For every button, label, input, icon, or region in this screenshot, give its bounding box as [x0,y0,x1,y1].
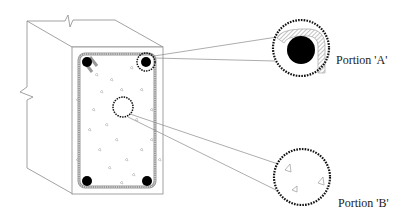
beam-body [20,15,163,194]
portion-b-detail [274,149,330,205]
rebar-top-right [141,57,151,67]
portion-a-detail [273,20,329,76]
portion-a-label: Portion 'A' [336,53,387,68]
beam-top-face [27,15,163,47]
rebar-bottom-right [142,176,152,186]
beam-side-face [20,21,73,194]
portion-a-rebar [287,36,315,64]
rebar-top-left [82,57,92,67]
rebar-bottom-left [82,176,92,186]
portion-b-label: Portion 'B' [338,196,389,211]
beam-diagram [0,0,407,219]
